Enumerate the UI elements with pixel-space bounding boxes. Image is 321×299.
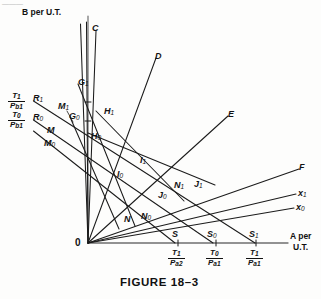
point-label-n: N — [124, 215, 131, 224]
x-tick-t0-pa1-numerator: T0 — [206, 249, 223, 258]
y-tick-t0-pb1-denominator: Pb1 — [8, 120, 25, 130]
point-label-s1: S1 — [249, 230, 259, 240]
point-label-s: S — [172, 230, 178, 239]
point-label-i1: I1 — [140, 156, 146, 166]
point-label-j1: J1 — [194, 180, 203, 190]
scan-edge-fragment: ——— — [2, 0, 23, 7]
figure-container: ——— B per U.T. A per U.T. 0 T1 Pb1 T0 Pb… — [0, 0, 321, 299]
point-label-h0: H0 — [91, 132, 101, 142]
curve-label-x0: x0 — [296, 203, 305, 213]
ray-x1 — [88, 194, 296, 243]
diagram-canvas — [0, 0, 321, 299]
figure-caption: FIGURE 18–3 — [120, 276, 199, 288]
point-label-h1: H1 — [104, 107, 114, 117]
x-axis-title-line1: A per — [290, 232, 311, 241]
x-tick-t0-pa1: T0 Pa1 — [206, 249, 223, 268]
curve-label-x1: x1 — [298, 189, 307, 199]
curve-label-c: C — [92, 24, 99, 33]
x-tick-t1-pa2-denominator: Pa2 — [168, 258, 185, 268]
point-label-m0: M0 — [44, 139, 55, 149]
point-label-j0: J0 — [158, 191, 167, 201]
point-label-i0: I0 — [117, 170, 123, 180]
x-tick-t0-pa1-denominator: Pa1 — [206, 258, 223, 268]
y-tick-t0-pb1: T0 Pb1 — [8, 111, 25, 130]
point-label-n0: N0 — [141, 212, 151, 222]
y-tick-t0-pb1-numerator: T0 — [8, 111, 25, 120]
x-tick-t1-pa2: T1 Pa2 — [168, 249, 185, 268]
x-tick-t1-pa1-numerator: T1 — [246, 249, 263, 258]
ray-e — [88, 116, 228, 243]
x-tick-t1-pa1-denominator: Pa1 — [246, 258, 263, 268]
curve-label-e: E — [228, 110, 234, 119]
point-label-g0: G0 — [69, 112, 80, 122]
x-tick-t1-pa1: T1 Pa1 — [246, 249, 263, 268]
y-axis-title: B per U.T. — [22, 8, 61, 17]
point-label-r0: R0 — [33, 113, 43, 123]
x-axis-title-line2: U.T. — [293, 243, 308, 252]
ray-x0 — [88, 208, 294, 243]
point-label-m: M — [47, 126, 55, 135]
y-tick-t1-pb1: T1 Pb1 — [8, 92, 25, 111]
y-tick-t1-pb1-numerator: T1 — [8, 92, 25, 101]
point-label-m1: M1 — [58, 102, 69, 112]
curve-label-f: F — [299, 163, 305, 172]
point-label-s0: S0 — [207, 230, 217, 240]
origin-label: 0 — [75, 237, 81, 248]
point-label-n1: N1 — [174, 181, 184, 191]
point-label-g1: G1 — [78, 78, 89, 88]
point-label-r1: R1 — [33, 94, 43, 104]
x-tick-t1-pa2-numerator: T1 — [168, 249, 185, 258]
curve-label-d: D — [155, 52, 162, 61]
